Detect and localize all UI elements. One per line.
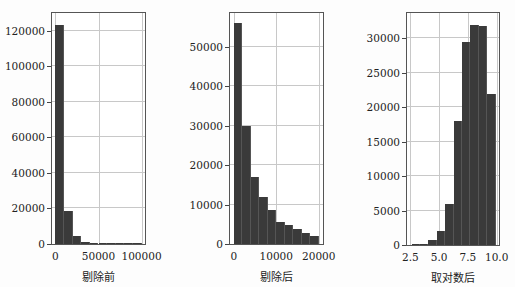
- y-tick-mark: [225, 47, 229, 48]
- histogram-bar: [242, 126, 250, 244]
- y-tick-label: 0: [340, 239, 400, 251]
- y-tick-mark: [402, 38, 406, 39]
- y-tick-label: 80000: [0, 96, 45, 108]
- y-tick-mark: [47, 244, 51, 245]
- y-tick-label: 15000: [340, 136, 400, 148]
- x-tick-label: 20000: [289, 250, 349, 262]
- histogram-bar: [107, 243, 116, 244]
- histogram-bar: [90, 243, 99, 244]
- y-tick-mark: [47, 137, 51, 138]
- histogram-bar: [81, 242, 90, 244]
- y-tick-mark: [225, 165, 229, 166]
- histogram-before-removal: [51, 12, 146, 245]
- histogram-bar: [302, 233, 310, 244]
- gridline-vertical: [276, 13, 277, 244]
- histogram-bar: [73, 236, 82, 244]
- histogram-bar: [470, 25, 478, 245]
- gridline-vertical: [410, 13, 411, 245]
- histogram-bar: [293, 229, 301, 244]
- y-tick-label: 120000: [0, 25, 45, 37]
- y-tick-mark: [47, 31, 51, 32]
- histogram-bar: [445, 204, 453, 245]
- y-tick-mark: [225, 205, 229, 206]
- gridline-vertical: [99, 13, 100, 244]
- histogram-bar: [285, 225, 293, 244]
- histogram-bar: [310, 236, 318, 244]
- histogram-bar: [268, 210, 276, 244]
- y-tick-label: 100000: [0, 60, 45, 72]
- x-tick-label: 100000: [112, 250, 172, 262]
- y-tick-label: 40000: [163, 80, 223, 92]
- histogram-bar: [55, 25, 64, 244]
- y-tick-label: 60000: [0, 131, 45, 143]
- x-axis-label: 剔除后: [227, 268, 327, 284]
- y-tick-mark: [47, 173, 51, 174]
- histogram-after-log: [406, 12, 500, 246]
- y-tick-label: 10000: [163, 199, 223, 211]
- y-tick-mark: [402, 107, 406, 108]
- x-axis-label: 剔除前: [49, 268, 149, 284]
- y-tick-label: 20000: [0, 202, 45, 214]
- histogram-after-removal: [229, 12, 324, 245]
- histogram-bar: [412, 244, 420, 245]
- y-tick-label: 20000: [163, 159, 223, 171]
- x-axis-label: 取对数后: [403, 269, 503, 285]
- gridline-vertical: [439, 13, 440, 245]
- gridline-vertical: [319, 13, 320, 244]
- y-tick-label: 20000: [340, 101, 400, 113]
- y-tick-mark: [402, 176, 406, 177]
- histogram-bar: [276, 222, 284, 245]
- histogram-bar: [420, 244, 428, 245]
- y-tick-label: 30000: [163, 120, 223, 132]
- y-tick-mark: [402, 73, 406, 74]
- histogram-bar: [251, 177, 259, 244]
- histogram-bar: [116, 243, 125, 244]
- y-tick-label: 5000: [340, 205, 400, 217]
- gridline-vertical: [497, 13, 498, 245]
- y-tick-mark: [47, 66, 51, 67]
- y-tick-label: 25000: [340, 67, 400, 79]
- histogram-bar: [133, 243, 142, 244]
- y-tick-label: 0: [163, 238, 223, 250]
- y-tick-mark: [402, 211, 406, 212]
- gridline-vertical: [142, 13, 143, 244]
- histogram-bar: [428, 240, 436, 246]
- histogram-bar: [124, 243, 133, 244]
- y-tick-mark: [402, 142, 406, 143]
- histogram-bar: [479, 26, 487, 245]
- y-tick-label: 50000: [163, 41, 223, 53]
- y-tick-mark: [225, 126, 229, 127]
- y-tick-mark: [225, 244, 229, 245]
- y-tick-label: 40000: [0, 167, 45, 179]
- y-tick-label: 30000: [340, 32, 400, 44]
- x-tick-label: 10.0: [467, 251, 515, 263]
- y-tick-mark: [47, 208, 51, 209]
- y-tick-label: 10000: [340, 170, 400, 182]
- histogram-bar: [64, 211, 73, 244]
- histogram-bar: [234, 23, 242, 244]
- histogram-bar: [99, 243, 108, 244]
- histogram-bar: [454, 121, 462, 245]
- y-tick-mark: [402, 245, 406, 246]
- histogram-bar: [487, 94, 495, 245]
- y-tick-mark: [47, 102, 51, 103]
- histogram-bar: [259, 197, 267, 244]
- y-tick-mark: [225, 86, 229, 87]
- histogram-bar: [437, 231, 445, 245]
- y-tick-label: 0: [0, 238, 45, 250]
- histogram-bar: [462, 42, 470, 245]
